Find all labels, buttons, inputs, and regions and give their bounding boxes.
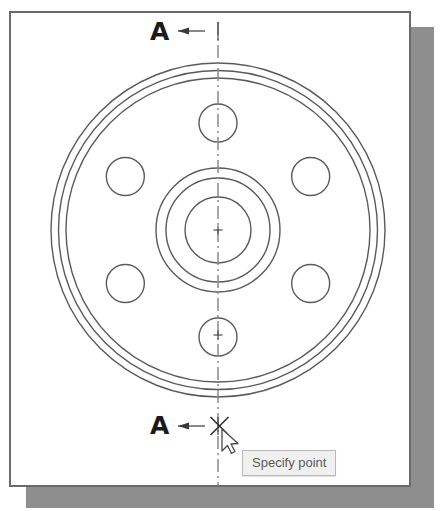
drawing-sheet (9, 11, 411, 487)
section-letter-top: A (150, 19, 169, 44)
section-letter-bottom: A (150, 413, 169, 438)
specify-point-tooltip: Specify point (242, 450, 336, 476)
cad-viewport: A A Specify point (0, 0, 443, 511)
